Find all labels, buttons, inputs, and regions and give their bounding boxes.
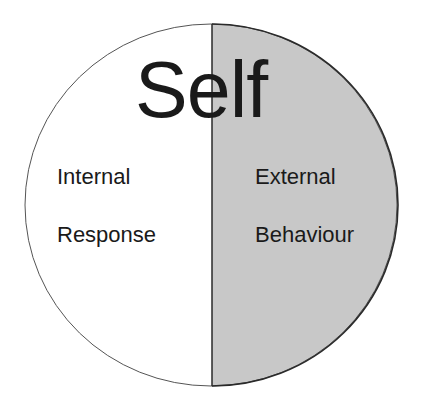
label-internal: Internal	[57, 166, 130, 188]
label-behaviour: Behaviour	[255, 224, 354, 246]
label-external: External	[255, 166, 336, 188]
diagram-title: Self	[135, 50, 267, 129]
label-response: Response	[57, 224, 156, 246]
